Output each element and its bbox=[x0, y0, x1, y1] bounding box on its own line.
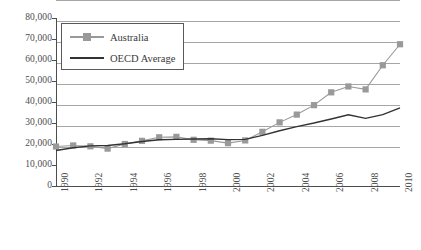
x-axis-label: 2008 bbox=[370, 173, 380, 192]
legend-label-oecd: OECD Average bbox=[110, 53, 175, 64]
legend-item-oecd: OECD Average bbox=[62, 47, 185, 69]
chart-legend: Australia OECD Average bbox=[61, 23, 184, 70]
x-axis-label: 1994 bbox=[129, 173, 139, 192]
x-axis-label: 2010 bbox=[404, 173, 414, 192]
legend-label-australia: Australia bbox=[110, 32, 149, 43]
x-axis-label: 1996 bbox=[163, 173, 173, 192]
legend-item-australia: Australia bbox=[62, 26, 185, 48]
x-axis-label: 2002 bbox=[266, 173, 276, 192]
chart-container: 80,00070,00060,00050,00040,00030,00020,0… bbox=[0, 0, 421, 250]
x-axis-label: 1990 bbox=[60, 173, 70, 192]
x-axis-label: 2006 bbox=[335, 173, 345, 192]
legend-swatch-oecd-icon bbox=[70, 52, 104, 64]
legend-swatch-australia-icon bbox=[70, 31, 104, 43]
x-axis-label: 1992 bbox=[94, 173, 104, 192]
x-axis-label: 2004 bbox=[301, 173, 311, 192]
x-axis-label: 1998 bbox=[198, 173, 208, 192]
x-axis-label: 2000 bbox=[232, 173, 242, 192]
